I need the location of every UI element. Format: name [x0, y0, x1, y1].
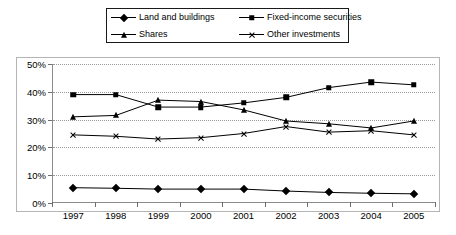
square-marker-icon — [368, 79, 374, 85]
x-axis-label: 1998 — [105, 210, 126, 221]
cross-marker-icon — [155, 136, 162, 143]
x-axis-label: 2004 — [361, 210, 382, 221]
square-marker-icon — [113, 92, 119, 98]
cross-marker-icon — [368, 127, 375, 134]
x-axis-label: 2003 — [318, 210, 339, 221]
cross-marker-icon — [239, 30, 264, 39]
y-axis-label: 20% — [27, 142, 46, 153]
triangle-marker-icon — [155, 97, 161, 103]
x-axis-label: 2000 — [190, 210, 211, 221]
cross-marker-icon — [70, 131, 77, 138]
x-axis-label: 1997 — [63, 210, 84, 221]
legend-label: Land and buildings — [139, 13, 215, 22]
diamond-marker-icon — [111, 13, 136, 22]
x-axis-tick — [435, 202, 436, 207]
triangle-marker-icon — [113, 112, 119, 118]
x-axis-label: 2001 — [233, 210, 254, 221]
chart-legend: Land and buildings Fixed-income securiti… — [106, 8, 349, 43]
y-axis-label: 40% — [27, 86, 46, 97]
square-marker-icon — [241, 100, 247, 106]
square-marker-icon — [283, 95, 289, 101]
triangle-marker-icon — [111, 30, 136, 39]
chart-screenshot: Land and buildings Fixed-income securiti… — [0, 0, 456, 235]
x-axis-label: 2005 — [403, 210, 424, 221]
triangle-marker-icon — [411, 118, 417, 124]
legend-label: Shares — [139, 30, 168, 39]
y-axis-label: 0% — [32, 198, 46, 209]
square-marker-icon — [198, 104, 204, 110]
legend-item-shares: Shares — [111, 30, 239, 39]
legend-item-land-and-buildings: Land and buildings — [111, 13, 239, 22]
cross-marker-icon — [240, 130, 247, 137]
square-marker-icon — [239, 13, 264, 22]
triangle-marker-icon — [70, 114, 76, 120]
legend-item-other-investments: Other investments — [239, 30, 354, 39]
square-marker-icon — [71, 92, 77, 98]
cross-marker-icon — [410, 131, 417, 138]
square-marker-icon — [156, 104, 162, 110]
triangle-marker-icon — [241, 107, 247, 113]
square-marker-icon — [326, 85, 332, 91]
y-axis-label: 30% — [27, 114, 46, 125]
square-marker-icon — [411, 82, 417, 88]
cross-marker-icon — [283, 123, 290, 130]
triangle-marker-icon — [326, 120, 332, 126]
y-axis-label: 50% — [27, 59, 46, 70]
cross-marker-icon — [112, 133, 119, 140]
x-axis-label: 2002 — [275, 210, 296, 221]
triangle-marker-icon — [198, 98, 204, 104]
cross-marker-icon — [325, 129, 332, 136]
legend-label: Other investments — [267, 30, 340, 39]
legend-label: Fixed-income securities — [267, 13, 362, 22]
y-axis-label: 10% — [27, 170, 46, 181]
legend-item-fixed-income-securities: Fixed-income securities — [239, 13, 354, 22]
legend-grid: Land and buildings Fixed-income securiti… — [107, 9, 348, 42]
x-axis-label: 1999 — [148, 210, 169, 221]
chart-plot-area: 0%10%20%30%40%50% 1997199819992000200120… — [52, 64, 435, 203]
cross-marker-icon — [197, 134, 204, 141]
